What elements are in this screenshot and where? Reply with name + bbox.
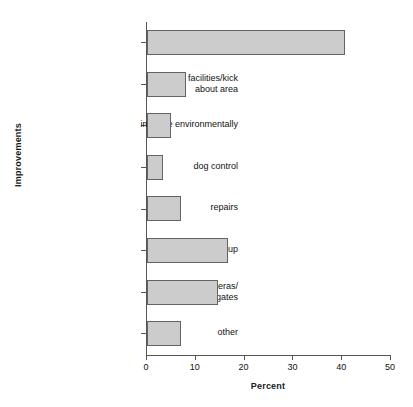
x-axis-tick: [244, 355, 245, 360]
plot-area: equip better new sport facilities/kick a…: [146, 22, 390, 355]
x-axis-tick-label: 20: [229, 362, 259, 372]
bar-row: make safer/cameras/ security staff/gates: [146, 272, 390, 314]
bar-new-sport-facilities: [147, 72, 186, 97]
bar-dog-control: [147, 155, 163, 180]
x-axis-tick: [341, 355, 342, 360]
x-axis-tick: [195, 355, 196, 360]
x-axis-tick: [390, 355, 391, 360]
bar-improve-environmentally: [147, 113, 171, 138]
bar-chart: Improvements equip better new sport faci…: [0, 0, 413, 407]
bar-equip-better: [147, 30, 345, 55]
bar-row: repairs: [146, 188, 390, 230]
x-axis-tick-label: 10: [180, 362, 210, 372]
y-axis-title: Improvements: [13, 95, 23, 215]
bar-clean-it-up: [147, 238, 228, 263]
bar-row: dog control: [146, 147, 390, 189]
x-axis-tick-label: 40: [326, 362, 356, 372]
bar-repairs: [147, 196, 181, 221]
x-axis-title: Percent: [146, 381, 390, 391]
x-axis-tick-label: 30: [277, 362, 307, 372]
x-axis-line: [146, 355, 390, 356]
bar-other: [147, 321, 181, 346]
category-label: dog control: [98, 161, 238, 172]
x-axis-tick-label: 0: [131, 362, 161, 372]
bar-row: improve environmentally: [146, 105, 390, 147]
bar-row: other: [146, 313, 390, 355]
x-axis-tick: [292, 355, 293, 360]
x-axis-tick-label: 50: [375, 362, 405, 372]
bar-row: new sport facilities/kick about area: [146, 64, 390, 106]
bar-make-safer: [147, 280, 218, 305]
bar-row: equip better: [146, 22, 390, 64]
x-axis-tick: [146, 355, 147, 360]
bar-row: clean it up: [146, 230, 390, 272]
